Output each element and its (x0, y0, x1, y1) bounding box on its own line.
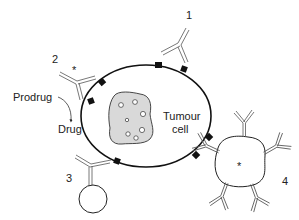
prodrug-to-drug-arrow (58, 97, 71, 121)
cell-label-line1: Tumour (163, 110, 201, 122)
cell-label-line2: cell (172, 123, 189, 135)
liposome-asterisk: * (237, 160, 242, 172)
antibody-targeting-diagram: Tumour cell 1 2 * Prodrug Drug (0, 0, 299, 220)
label-3: 3 (66, 172, 72, 184)
antibody-3 (75, 155, 111, 186)
nucleus (109, 92, 153, 144)
label-2: 2 (52, 53, 58, 65)
prodrug-label: Prodrug (13, 91, 52, 103)
carrier-sphere (79, 185, 107, 213)
label-4: 4 (282, 175, 288, 187)
label-1: 1 (186, 9, 192, 21)
drug-label: Drug (58, 123, 82, 135)
enzyme-asterisk: * (72, 64, 77, 76)
antibody-1 (161, 28, 189, 63)
